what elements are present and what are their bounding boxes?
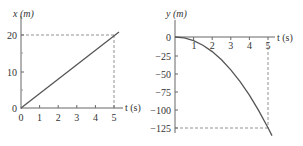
y-axis-label: x (m) bbox=[12, 8, 34, 20]
y-tick-label: −100 bbox=[150, 105, 171, 116]
x-tick-label: 4 bbox=[247, 40, 252, 51]
x-tick-label: 3 bbox=[228, 40, 233, 51]
figure: x (m) t (s) 20 10 0 0 1 2 3 4 5 y (m) t … bbox=[0, 0, 303, 146]
x-tick-label: 5 bbox=[112, 112, 117, 123]
x-tick-label: 4 bbox=[93, 112, 98, 123]
x-tick-label: 1 bbox=[192, 40, 197, 51]
y-tick-label: 0 bbox=[12, 103, 17, 114]
x-tick-label: 2 bbox=[210, 40, 215, 51]
y-tick-label: −125 bbox=[150, 123, 171, 134]
y-tick-label: 0 bbox=[166, 32, 171, 43]
y-tick-label: −50 bbox=[155, 69, 171, 80]
x-tick-label: 2 bbox=[56, 112, 61, 123]
data-curve bbox=[175, 37, 272, 136]
x-axis-label: t (s) bbox=[125, 102, 141, 114]
y-tick-label: 20 bbox=[7, 30, 17, 41]
x-tick-label: 5 bbox=[266, 40, 271, 51]
x-axis-label: t (s) bbox=[277, 32, 293, 44]
data-line bbox=[21, 32, 119, 108]
left-chart: x (m) t (s) 20 10 0 0 1 2 3 4 5 bbox=[7, 8, 141, 123]
y-tick-label: −25 bbox=[155, 51, 171, 62]
y-tick-label: 10 bbox=[7, 67, 17, 78]
y-tick-label: −75 bbox=[155, 87, 171, 98]
y-axis-label: y (m) bbox=[165, 8, 187, 20]
x-tick-label: 0 bbox=[19, 112, 24, 123]
right-chart: y (m) t (s) 0 −25 −50 −75 −100 −125 1 2 … bbox=[150, 8, 292, 136]
x-tick-label: 3 bbox=[74, 112, 79, 123]
x-tick-label: 1 bbox=[37, 112, 42, 123]
